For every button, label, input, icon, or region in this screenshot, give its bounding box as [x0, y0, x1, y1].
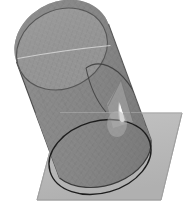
cylinder-plane-figure: Cylinder intersected by a plane A tilted… [0, 0, 196, 220]
light-patch [107, 111, 127, 137]
soft-light-patch [107, 111, 127, 137]
figure-container: Cylinder intersected by a plane A tilted… [0, 0, 196, 220]
